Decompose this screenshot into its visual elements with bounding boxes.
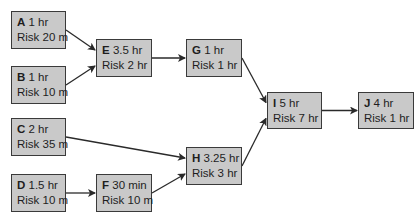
node-risk: Risk 3 hr <box>192 166 241 181</box>
node-duration: 30 min <box>112 179 147 191</box>
node-id: B <box>17 71 25 83</box>
edge-h-i <box>242 119 266 167</box>
node-title: E 3.5 hr <box>102 43 151 58</box>
node-duration: 5 hr <box>279 97 299 109</box>
node-duration: 1 hr <box>29 71 49 83</box>
node-id: E <box>102 44 110 56</box>
node-title: G 1 hr <box>192 43 241 58</box>
node-duration: 2 hr <box>29 123 49 135</box>
node-title: I 5 hr <box>273 96 321 111</box>
edge-f-h <box>152 174 185 193</box>
node-risk: Risk 20 m <box>17 30 65 45</box>
node-title: C 2 hr <box>17 122 65 137</box>
node-c: C 2 hrRisk 35 m <box>11 118 66 156</box>
node-id: I <box>273 97 276 109</box>
node-title: B 1 hr <box>17 70 65 85</box>
edge-a-e <box>66 30 95 50</box>
edge-b-e <box>66 66 95 85</box>
node-id: G <box>192 44 201 56</box>
node-e: E 3.5 hrRisk 2 hr <box>96 39 152 77</box>
node-id: C <box>17 123 25 135</box>
node-title: D 1.5 hr <box>17 178 65 193</box>
node-title: F 30 min <box>102 178 151 193</box>
edge-g-i <box>242 58 266 103</box>
node-g: G 1 hrRisk 1 hr <box>186 39 242 77</box>
node-f: F 30 minRisk 10 m <box>96 174 152 212</box>
node-risk: Risk 10 m <box>102 193 151 208</box>
node-risk: Risk 10 m <box>17 193 65 208</box>
node-id: H <box>192 152 200 164</box>
node-j: J 4 hrRisk 1 hr <box>358 92 414 129</box>
node-risk: Risk 35 m <box>17 137 65 152</box>
node-risk: Risk 7 hr <box>273 111 321 126</box>
node-b: B 1 hrRisk 10 m <box>11 66 66 104</box>
node-id: F <box>102 179 109 191</box>
edge-c-h <box>66 137 185 158</box>
node-title: H 3.25 hr <box>192 151 241 166</box>
node-title: A 1 hr <box>17 15 65 30</box>
node-title: J 4 hr <box>364 96 413 111</box>
node-duration: 1 hr <box>29 16 49 28</box>
node-duration: 1 hr <box>204 44 224 56</box>
node-risk: Risk 2 hr <box>102 58 151 73</box>
node-h: H 3.25 hrRisk 3 hr <box>186 147 242 185</box>
node-duration: 1.5 hr <box>29 179 58 191</box>
node-id: A <box>17 16 25 28</box>
node-duration: 3.25 hr <box>204 152 240 164</box>
node-duration: 4 hr <box>374 97 394 109</box>
node-risk: Risk 1 hr <box>192 58 241 73</box>
node-risk: Risk 10 m <box>17 85 65 100</box>
node-id: D <box>17 179 25 191</box>
node-id: J <box>364 97 370 109</box>
node-a: A 1 hrRisk 20 m <box>11 11 66 49</box>
node-duration: 3.5 hr <box>113 44 142 56</box>
node-d: D 1.5 hrRisk 10 m <box>11 174 66 212</box>
node-i: I 5 hrRisk 7 hr <box>267 92 322 129</box>
node-risk: Risk 1 hr <box>364 111 413 126</box>
network-diagram: A 1 hrRisk 20 mB 1 hrRisk 10 mC 2 hrRisk… <box>0 0 420 224</box>
